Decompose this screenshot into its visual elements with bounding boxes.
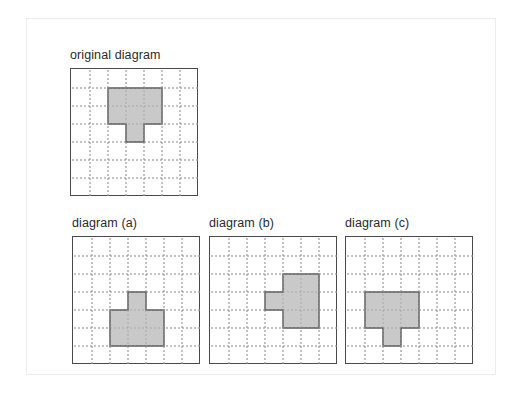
- shaded-shape-a: [110, 292, 164, 346]
- grid-box-c: [345, 236, 473, 364]
- panel-label-a: diagram (a): [72, 216, 137, 230]
- shaded-shape-c: [365, 292, 419, 346]
- shaded-shape-original: [108, 88, 162, 142]
- panel-label-original: original diagram: [70, 48, 161, 62]
- grid-box-a: [72, 236, 200, 364]
- panel-original-diagram: original diagram: [70, 48, 198, 196]
- panel-diagram-a: diagram (a): [72, 216, 200, 364]
- panel-diagram-b: diagram (b): [209, 216, 337, 364]
- grid-svg-c: [346, 237, 474, 365]
- panel-label-b: diagram (b): [209, 216, 274, 230]
- panel-diagram-c: diagram (c): [345, 216, 473, 364]
- shaded-shape-b: [265, 274, 319, 328]
- grid-svg-a: [73, 237, 201, 365]
- grid-box-original: [70, 68, 198, 196]
- grid-svg-b: [210, 237, 338, 365]
- panel-label-c: diagram (c): [345, 216, 409, 230]
- figure-root: original diagram diagram (a) diagram (b)…: [0, 0, 532, 399]
- grid-svg-original: [71, 69, 199, 197]
- grid-box-b: [209, 236, 337, 364]
